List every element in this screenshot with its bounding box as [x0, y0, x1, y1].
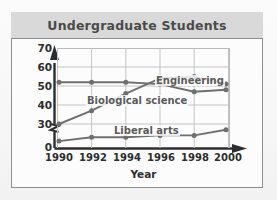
- x-tick-1992: 1992: [75, 152, 111, 163]
- x-axis-ticks: 1990 1992 1994 1996 1998 2000: [57, 152, 237, 168]
- series-label-engineering: Engineering: [155, 75, 225, 86]
- x-axis-label: Year: [57, 168, 230, 180]
- x-tick-1990: 1990: [41, 152, 77, 163]
- x-tick-1994: 1994: [109, 152, 145, 163]
- chart-figure: Undergraduate Students Students (thousan…: [0, 0, 277, 200]
- x-tick-2000: 2000: [210, 152, 246, 163]
- x-tick-1996: 1996: [143, 152, 179, 163]
- series-label-biological-science: Biological science: [86, 95, 188, 106]
- series-label-liberal-arts: Liberal arts: [113, 125, 180, 136]
- x-tick-1998: 1998: [177, 152, 213, 163]
